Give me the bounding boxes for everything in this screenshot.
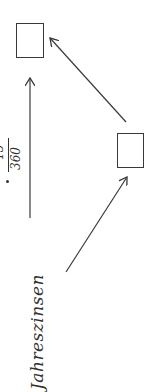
jahreszinsen-label: Jahreszinsen [27,274,47,390]
arrows-layer [0,0,150,392]
fraction-denominator: 360 [9,147,23,170]
arrow-to-right-box [66,177,127,272]
arrow-right-box-to-top-box [50,38,126,122]
diagram-canvas: 15 360 Jahreszinsen [0,0,150,392]
top-box [16,23,44,58]
right-box [117,133,144,168]
multiply-dot [6,180,9,183]
fraction-numerator: 15 [0,145,6,160]
